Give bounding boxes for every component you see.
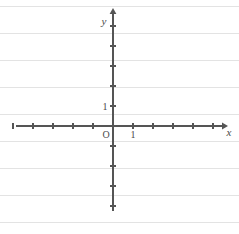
axis-arrowheads [110,8,228,129]
x-axis-label: x [226,126,232,138]
x-axis-unit-label: 1 [131,129,136,140]
origin-label: O [102,129,109,140]
coordinate-plane-figure: y x O 1 1 [0,0,239,234]
axis-lines [16,14,222,211]
y-axis-label: y [101,15,107,27]
coordinate-axes: y x O 1 1 [0,0,239,234]
y-axis-arrowhead [110,8,117,14]
y-axis-unit-label: 1 [103,101,108,112]
